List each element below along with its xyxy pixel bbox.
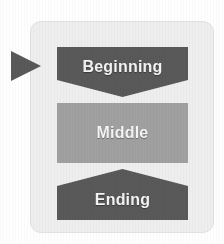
- stage-shape-beginning[interactable]: [57, 47, 188, 97]
- diagram-canvas: Beginning Middle Ending: [0, 0, 224, 244]
- stage-shape-ending[interactable]: [57, 169, 188, 220]
- right-triangle-arrow-icon: [9, 49, 43, 83]
- stage-shape-middle[interactable]: [57, 103, 188, 163]
